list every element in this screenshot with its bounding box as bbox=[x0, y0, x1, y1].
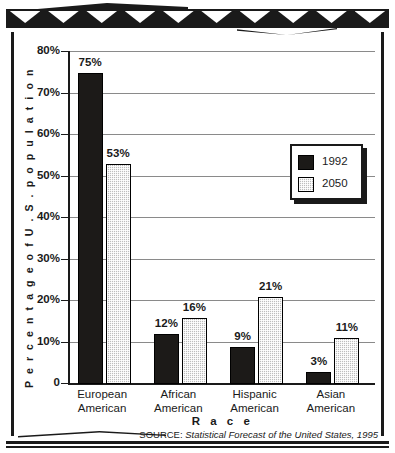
bar-2050-1 bbox=[106, 164, 131, 384]
y-axis-tick bbox=[61, 217, 69, 218]
notch-icon bbox=[44, 11, 82, 23]
category-label-line2: American bbox=[140, 402, 216, 416]
y-axis-tick bbox=[61, 300, 69, 301]
gray-dotted-square-icon bbox=[298, 177, 314, 192]
bar-value-label: 21% bbox=[250, 281, 291, 293]
bar-1992-4 bbox=[306, 372, 331, 384]
y-axis-tick-label: 40% bbox=[14, 211, 60, 223]
x-axis-category-label: EuropeanAmerican bbox=[64, 388, 140, 415]
y-axis-tick-label: 70% bbox=[14, 87, 60, 99]
bar-value-label: 9% bbox=[222, 331, 263, 343]
bar-chart-figure: P e r c e n t a g e o f U . S . p o p u … bbox=[0, 0, 395, 453]
y-axis-tick-label: 60% bbox=[14, 128, 60, 140]
notch-icon bbox=[197, 11, 235, 23]
bar-1992-2 bbox=[154, 334, 179, 384]
chart-legend: 1992 2050 bbox=[290, 144, 363, 200]
x-axis-category-label: AsianAmerican bbox=[293, 388, 369, 415]
y-axis-tick-label: 30% bbox=[14, 253, 60, 265]
y-axis-tick-label: 0 bbox=[14, 377, 60, 389]
bar-value-label: 16% bbox=[174, 302, 215, 314]
y-axis-tick bbox=[61, 93, 69, 94]
bottom-rule-thick bbox=[6, 441, 389, 444]
y-axis-tick bbox=[61, 342, 69, 343]
gridline bbox=[70, 51, 375, 52]
legend-label: 2050 bbox=[322, 178, 348, 190]
category-label-line2: American bbox=[293, 402, 369, 416]
black-square-icon bbox=[298, 155, 314, 170]
top-band-notches bbox=[6, 11, 389, 23]
legend-item-1992: 1992 bbox=[298, 151, 355, 173]
notch-icon bbox=[83, 11, 121, 23]
notch-icon bbox=[351, 11, 389, 23]
gridline bbox=[70, 134, 375, 135]
y-axis-tick bbox=[61, 259, 69, 260]
notch-icon bbox=[274, 11, 312, 23]
y-axis-tick bbox=[61, 134, 69, 135]
bar-2050-4 bbox=[334, 338, 359, 384]
category-label-line2: American bbox=[64, 402, 140, 416]
bar-2050-3 bbox=[258, 297, 283, 384]
y-axis-line bbox=[68, 51, 70, 385]
bar-2050-2 bbox=[182, 318, 207, 384]
top-decorative-band bbox=[6, 9, 389, 28]
y-axis-tick-label: 80% bbox=[14, 45, 60, 57]
y-axis-tick bbox=[61, 51, 69, 52]
legend-item-2050: 2050 bbox=[298, 173, 355, 195]
bottom-rule-thin bbox=[6, 446, 389, 448]
y-axis-tick-labels: 010%20%30%40%50%60%70%80% bbox=[14, 51, 60, 384]
x-axis-title: R a c e bbox=[70, 415, 375, 427]
plot-area: 75%53%12%16%9%21%3%11% bbox=[70, 51, 375, 384]
legend-label: 1992 bbox=[322, 156, 348, 168]
category-label-line1: African bbox=[140, 388, 216, 402]
y-axis-tick-label: 50% bbox=[14, 170, 60, 182]
notch-icon bbox=[121, 11, 159, 23]
category-label-line1: Asian bbox=[293, 388, 369, 402]
notch-icon bbox=[6, 11, 44, 23]
notch-icon bbox=[312, 11, 350, 23]
source-title: Statistical Forecast of the United State… bbox=[185, 429, 378, 440]
category-label-line1: Hispanic bbox=[217, 388, 293, 402]
y-axis-tick bbox=[61, 176, 69, 177]
x-axis-category-label: AfricanAmerican bbox=[140, 388, 216, 415]
bar-value-label: 75% bbox=[70, 57, 111, 69]
notch-icon bbox=[159, 11, 197, 23]
y-axis-tick-label: 20% bbox=[14, 294, 60, 306]
bar-value-label: 12% bbox=[146, 318, 187, 330]
x-axis-category-label: HispanicAmerican bbox=[217, 388, 293, 415]
bar-1992-3 bbox=[230, 347, 255, 384]
bar-value-label: 53% bbox=[98, 148, 139, 160]
source-note: SOURCE: Statistical Forecast of the Unit… bbox=[70, 430, 378, 440]
bar-1992-1 bbox=[78, 73, 103, 384]
y-axis-tick-label: 10% bbox=[14, 336, 60, 348]
bar-value-label: 11% bbox=[326, 322, 367, 334]
y-axis-tick bbox=[61, 383, 69, 384]
notch-icon bbox=[236, 11, 274, 23]
sub-accent-ornament bbox=[237, 28, 337, 35]
bar-value-label: 3% bbox=[298, 356, 339, 368]
gridline bbox=[70, 93, 375, 94]
category-label-line1: European bbox=[64, 388, 140, 402]
frame-rail-right bbox=[381, 32, 384, 436]
category-label-line2: American bbox=[217, 402, 293, 416]
